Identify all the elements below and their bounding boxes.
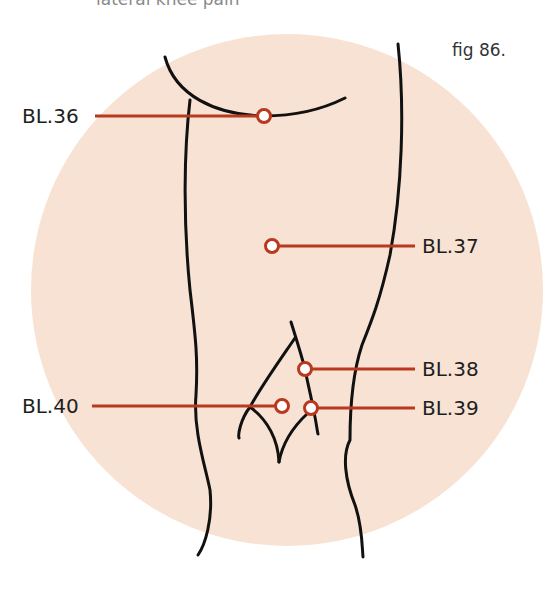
label-bl38: BL.38 (422, 359, 479, 379)
marker-bl40[interactable] (276, 400, 289, 413)
marker-bl39[interactable] (305, 402, 318, 415)
label-bl37: BL.37 (422, 236, 479, 256)
label-bl36: BL.36 (22, 106, 79, 126)
marker-bl36[interactable] (258, 110, 271, 123)
label-bl39: BL.39 (422, 398, 479, 418)
background-circle (31, 34, 543, 546)
marker-bl38[interactable] (299, 363, 312, 376)
knee-acupoint-diagram (0, 0, 551, 604)
marker-bl37[interactable] (266, 240, 279, 253)
label-bl40: BL.40 (22, 396, 79, 416)
